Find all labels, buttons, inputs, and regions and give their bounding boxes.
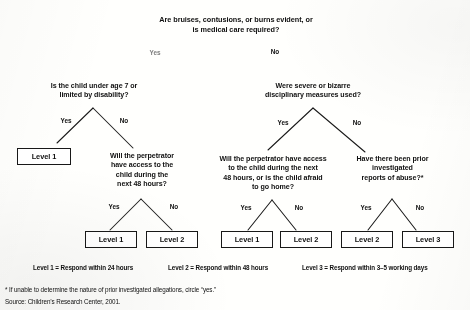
left-branch-label-no: No [113, 117, 135, 124]
leaf-box-4: Level 1 [221, 231, 273, 248]
leaf-box-3: Level 2 [146, 231, 198, 248]
node-right-sub-right-question: Have there been prior investigated repor… [336, 155, 449, 183]
legend-level-1: Level 1 = Respond within 24 hours [33, 264, 133, 271]
leaf-box-2: Level 1 [85, 231, 137, 248]
leaf-box-1: Level 1 [17, 148, 71, 165]
leaf-box-6: Level 2 [341, 231, 393, 248]
node-left-sub-question: Will the perpetrator have access to the … [95, 152, 189, 190]
leaf-box-7: Level 3 [402, 231, 454, 248]
leaf-box-5: Level 2 [280, 231, 332, 248]
right-sub-right-branch-label-yes: Yes [355, 204, 377, 211]
node-right-question: Were severe or bizarre disciplinary meas… [245, 82, 381, 101]
left-branch-label-yes: Yes [55, 117, 77, 124]
left-sub-branch-label-no: No [163, 203, 185, 210]
right-branch-label-no: No [346, 119, 368, 126]
footnote-asterisk: * If unable to determine the nature of p… [5, 286, 216, 293]
right-sub-left-branch-label-yes: Yes [235, 204, 257, 211]
legend-level-2: Level 2 = Respond within 48 hours [168, 264, 268, 271]
decision-tree-page: Are bruises, contusions, or burns eviden… [0, 0, 470, 310]
left-sub-branch-label-yes: Yes [103, 203, 125, 210]
right-branch-label-yes: Yes [272, 119, 294, 126]
right-sub-right-branch-label-no: No [409, 204, 431, 211]
right-sub-left-branch-label-no: No [288, 204, 310, 211]
legend-level-3: Level 3 = Respond within 3–5 working day… [302, 264, 428, 271]
footnote-source: Source: Children’s Research Center, 2001… [5, 298, 121, 305]
node-left-question: Is the child under age 7 or limited by d… [28, 82, 160, 101]
node-right-sub-left-question: Will the perpetrator have access to the … [206, 155, 340, 193]
